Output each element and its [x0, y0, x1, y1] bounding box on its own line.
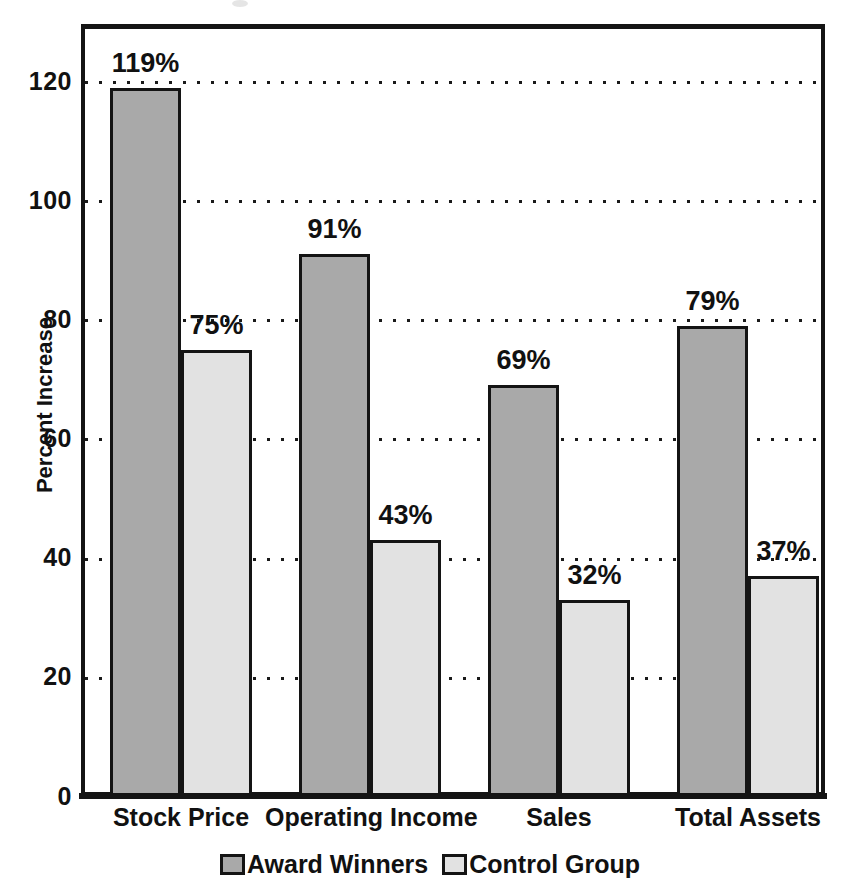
- gridline-120: [85, 81, 821, 84]
- y-tick-label: 40: [10, 545, 72, 570]
- legend-entry-award-winners[interactable]: Award Winners: [220, 852, 428, 877]
- legend-label-award-winners: Award Winners: [247, 852, 428, 877]
- bar-label-total-assets-control-group: 37%: [739, 538, 828, 565]
- bar-label-total-assets-award-winners: 79%: [668, 288, 757, 315]
- y-tick-label: 60: [10, 426, 72, 451]
- chart-legend: Award Winners Control Group: [0, 852, 860, 877]
- x-tick-label-total-assets: Total Assets: [648, 805, 848, 830]
- x-tick-label-stock-price: Stock Price: [81, 805, 281, 830]
- x-axis-line: [79, 793, 827, 799]
- bar-total-assets-award-winners[interactable]: [677, 326, 748, 796]
- scan-artifact: [232, 0, 248, 7]
- bar-stock-price-control-group[interactable]: [181, 350, 252, 796]
- gridline-100: [85, 200, 821, 203]
- y-tick-label: 20: [10, 664, 72, 689]
- y-tick-label: 120: [10, 69, 72, 94]
- bar-label-stock-price-control-group: 75%: [172, 312, 261, 339]
- bar-sales-control-group[interactable]: [559, 600, 630, 796]
- bar-label-operating-income-award-winners: 91%: [290, 216, 379, 243]
- y-tick-label: 100: [10, 188, 72, 213]
- bar-label-sales-control-group: 32%: [550, 562, 639, 589]
- bar-operating-income-award-winners[interactable]: [299, 254, 370, 796]
- bar-label-stock-price-award-winners: 119%: [96, 50, 195, 77]
- bar-total-assets-control-group[interactable]: [748, 576, 819, 796]
- legend-entry-control-group[interactable]: Control Group: [442, 852, 640, 877]
- bar-stock-price-award-winners[interactable]: [110, 88, 181, 796]
- bar-label-sales-award-winners: 69%: [479, 347, 568, 374]
- bar-label-operating-income-control-group: 43%: [361, 502, 450, 529]
- legend-swatch-icon: [442, 854, 467, 875]
- legend-swatch-icon: [220, 854, 245, 875]
- y-tick-label: 80: [10, 307, 72, 332]
- bar-chart: Percent Increase 120 100 80 60 40 20 0 1…: [0, 0, 860, 892]
- bar-sales-award-winners[interactable]: [488, 385, 559, 796]
- bar-operating-income-control-group[interactable]: [370, 540, 441, 796]
- legend-label-control-group: Control Group: [469, 852, 640, 877]
- y-axis-ticks: 120 100 80 60 40 20 0: [0, 0, 72, 892]
- x-tick-label-sales: Sales: [459, 805, 659, 830]
- y-tick-label: 0: [10, 784, 72, 809]
- x-tick-label-operating-income: Operating Income: [265, 805, 475, 830]
